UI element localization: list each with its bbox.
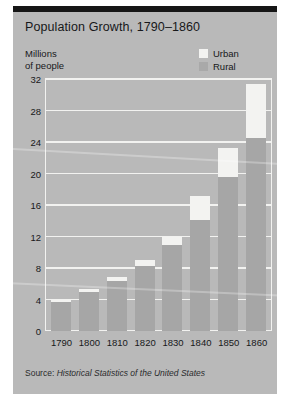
plot-area — [45, 79, 272, 331]
x-axis-tick-labels: 17901800181018201830184018501860 — [45, 337, 272, 348]
x-axis-tick: 1860 — [246, 337, 266, 348]
chart-page: Population Growth, 1790–1860 Millions of… — [0, 0, 290, 407]
y-axis-tick: 4 — [17, 294, 41, 305]
chart-title: Population Growth, 1790–1860 — [25, 20, 200, 34]
bar-series — [45, 79, 272, 331]
bar-segment-rural — [79, 292, 99, 331]
bar-segment-rural — [246, 138, 266, 331]
top-rule — [13, 6, 277, 12]
bar-segment-rural — [218, 177, 238, 331]
bar-column — [218, 79, 238, 331]
x-axis-tick: 1820 — [135, 337, 155, 348]
y-axis-tick: 16 — [17, 200, 41, 211]
bar-segment-urban — [190, 196, 210, 220]
y-axis-tick-labels: 048121620242832 — [13, 79, 41, 331]
bar-segment-urban — [246, 84, 266, 138]
x-axis-tick: 1840 — [190, 337, 210, 348]
bar-column — [246, 79, 266, 331]
x-axis-tick: 1830 — [162, 337, 182, 348]
chart-legend: Urban Rural — [199, 47, 269, 73]
source-title: Historical Statistics of the United Stat… — [57, 368, 205, 378]
legend-item-rural: Rural — [199, 60, 269, 72]
y-axis-caption-line2: of people — [25, 60, 64, 72]
y-axis-caption-line1: Millions — [25, 48, 64, 60]
bar-segment-urban — [162, 237, 182, 246]
y-axis-tick: 28 — [17, 105, 41, 116]
bar-segment-rural — [135, 266, 155, 331]
y-axis-tick: 32 — [17, 74, 41, 85]
bar-segment-urban — [218, 148, 238, 176]
bar-segment-rural — [51, 302, 71, 331]
bar-segment-rural — [190, 220, 210, 331]
y-axis-tick: 0 — [17, 326, 41, 337]
x-axis-tick: 1800 — [79, 337, 99, 348]
y-axis-tick: 12 — [17, 231, 41, 242]
legend-swatch-rural-icon — [199, 62, 208, 71]
x-axis-tick: 1790 — [51, 337, 71, 348]
legend-label-urban: Urban — [213, 48, 239, 59]
x-axis-tick: 1850 — [218, 337, 238, 348]
y-axis-tick: 20 — [17, 168, 41, 179]
bar-segment-rural — [162, 245, 182, 331]
bar-column — [190, 79, 210, 331]
y-axis-tick: 8 — [17, 263, 41, 274]
chart-card: Population Growth, 1790–1860 Millions of… — [13, 6, 277, 394]
source-note: Source: Historical Statistics of the Uni… — [25, 368, 205, 378]
bar-segment-rural — [107, 281, 127, 331]
bar-column — [51, 79, 71, 331]
bar-column — [162, 79, 182, 331]
source-prefix: Source: — [25, 368, 57, 378]
bar-column — [107, 79, 127, 331]
legend-label-rural: Rural — [213, 61, 236, 72]
x-axis-tick: 1810 — [107, 337, 127, 348]
bar-column — [135, 79, 155, 331]
bar-column — [79, 79, 99, 331]
y-axis-tick: 24 — [17, 137, 41, 148]
legend-swatch-urban-icon — [199, 49, 208, 58]
legend-item-urban: Urban — [199, 47, 269, 59]
y-axis-caption: Millions of people — [25, 48, 64, 71]
